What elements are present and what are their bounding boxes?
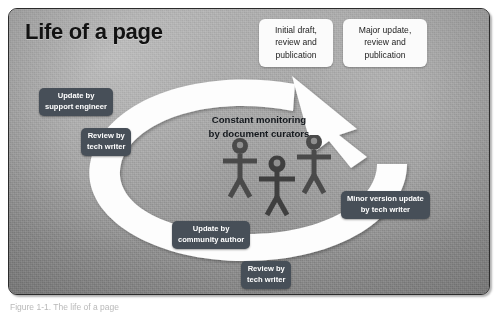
callout-initial-draft: Initial draft, review and publication xyxy=(259,19,333,67)
label-update-by-support-engineer: Update by support engineer xyxy=(39,88,113,116)
stick-figure-left xyxy=(223,138,257,197)
label-review-by-tech-writer-bottom: Review by tech writer xyxy=(241,261,291,289)
label-support-engineer-line-2: support engineer xyxy=(45,102,107,113)
label-review-by-tech-writer-top: Review by tech writer xyxy=(81,128,131,156)
stick-figure-center xyxy=(259,156,295,216)
figure-root: Life of a page Constant monitoring by do… xyxy=(0,0,503,317)
label-review-tech-1-line-1: Review by xyxy=(87,131,125,142)
label-review-tech-1-line-2: tech writer xyxy=(87,142,125,153)
center-heading-line-1: Constant monitoring xyxy=(184,113,334,127)
label-review-tech-2-line-2: tech writer xyxy=(247,275,285,286)
callout-initial-draft-line-2: review and xyxy=(265,36,327,48)
label-community-author-line-1: Update by xyxy=(178,224,244,235)
stick-figure-right xyxy=(297,135,331,193)
label-minor-version-update-by-tech-writer: Minor version update by tech writer xyxy=(341,191,430,219)
label-minor-version-line-1: Minor version update xyxy=(347,194,424,205)
callout-major-update-line-3: publication xyxy=(349,49,421,61)
label-review-tech-2-line-1: Review by xyxy=(247,264,285,275)
slide-frame: Life of a page Constant monitoring by do… xyxy=(8,8,490,295)
callout-major-update-line-2: review and xyxy=(349,36,421,48)
callout-initial-draft-line-3: publication xyxy=(265,49,327,61)
callout-initial-draft-line-1: Initial draft, xyxy=(265,24,327,36)
label-community-author-line-2: community author xyxy=(178,235,244,246)
callout-major-update: Major update, review and publication xyxy=(343,19,427,67)
label-minor-version-line-2: by tech writer xyxy=(347,205,424,216)
callout-major-update-line-1: Major update, xyxy=(349,24,421,36)
label-update-by-community-author: Update by community author xyxy=(172,221,250,249)
document-curator-figures xyxy=(214,135,342,221)
figure-caption: Figure 1-1. The life of a page xyxy=(10,302,310,317)
label-support-engineer-line-1: Update by xyxy=(45,91,107,102)
